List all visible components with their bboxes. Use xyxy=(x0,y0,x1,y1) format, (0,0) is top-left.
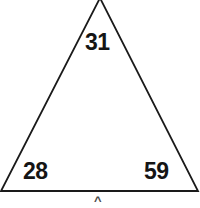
angle-label-bottom-right: 59 xyxy=(144,160,169,183)
angle-label-apex: 31 xyxy=(85,31,110,54)
triangle-angle-diagram: 31 28 59 ^ xyxy=(0,0,200,208)
angle-label-bottom-left: 28 xyxy=(23,160,48,183)
caret-mark-icon: ^ xyxy=(94,194,102,207)
